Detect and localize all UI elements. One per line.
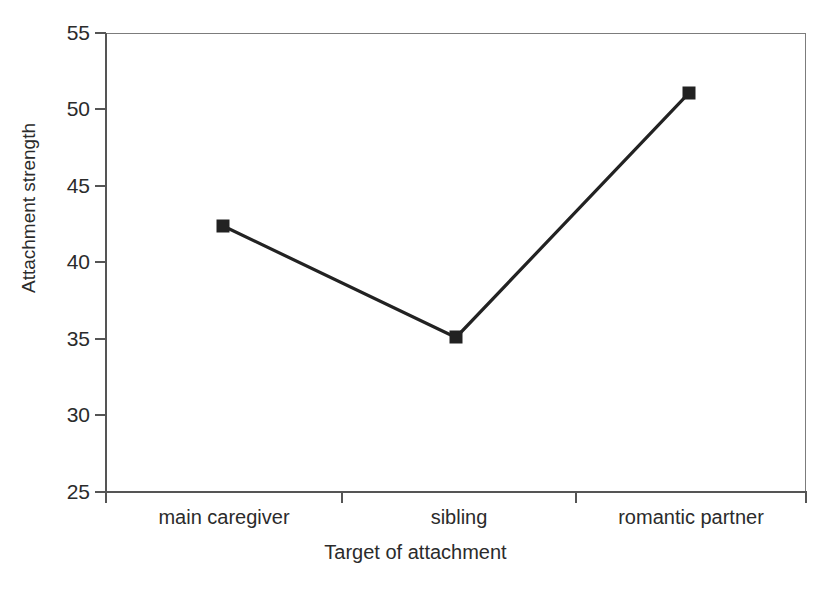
y-axis-tick-45 bbox=[95, 185, 106, 187]
y-axis-tick-label-50: 50 bbox=[42, 98, 90, 119]
x-axis-title: Target of attachment bbox=[0, 540, 831, 564]
data-point-marker bbox=[683, 86, 696, 99]
y-axis-tick-55 bbox=[95, 32, 106, 34]
x-axis-tick-label-main-caregiver: main caregiver bbox=[106, 505, 342, 529]
x-axis-tick-2 bbox=[575, 492, 577, 503]
y-axis-tick-label-40: 40 bbox=[42, 251, 90, 272]
y-axis-tick-35 bbox=[95, 338, 106, 340]
x-axis-tick-1 bbox=[341, 492, 343, 503]
data-point-marker bbox=[216, 219, 229, 232]
plot-area bbox=[106, 33, 806, 492]
y-axis-tick-label-45: 45 bbox=[42, 175, 90, 196]
x-axis-tick-0 bbox=[105, 492, 107, 503]
y-axis-tick-label-30: 30 bbox=[42, 404, 90, 425]
x-axis-tick-label-romantic-partner: romantic partner bbox=[576, 505, 806, 529]
attachment-strength-line-chart: 55 50 45 40 35 30 25 Attachment strength… bbox=[0, 0, 831, 589]
y-axis-tick-30 bbox=[95, 414, 106, 416]
x-axis-tick-label-sibling: sibling bbox=[342, 505, 576, 529]
y-axis-tick-label-55: 55 bbox=[42, 22, 90, 43]
data-point-marker bbox=[450, 331, 463, 344]
y-axis-line bbox=[105, 33, 107, 493]
y-axis-tick-40 bbox=[95, 261, 106, 263]
y-axis-tick-50 bbox=[95, 108, 106, 110]
x-axis-tick-3 bbox=[805, 492, 807, 503]
y-axis-tick-label-35: 35 bbox=[42, 328, 90, 349]
x-axis-line bbox=[105, 491, 807, 493]
y-axis-title: Attachment strength bbox=[18, 93, 40, 323]
y-axis-tick-label-25: 25 bbox=[42, 481, 90, 502]
